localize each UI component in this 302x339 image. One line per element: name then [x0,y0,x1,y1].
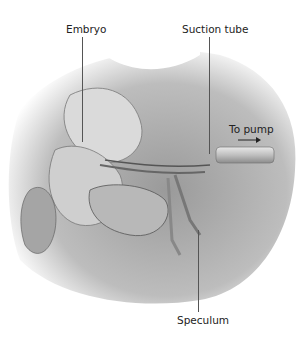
label-suction-tube: Suction tube [182,23,248,35]
leader-suction-tube [209,37,210,154]
label-embryo: Embryo [66,23,106,35]
label-speculum: Speculum [177,314,229,326]
leader-speculum [198,230,199,312]
label-to-pump: To pump [229,123,274,135]
anatomical-illustration [0,0,302,339]
leader-embryo [82,37,83,142]
